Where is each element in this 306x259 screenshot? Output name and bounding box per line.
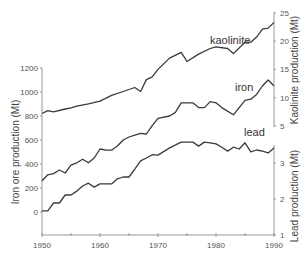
- left-tick-label: 400: [25, 160, 39, 169]
- x-tick-label: 1990: [265, 241, 283, 250]
- left-tick-label: 1200: [20, 64, 38, 73]
- right-top-axis-title: Kaolinite production (Mt): [289, 16, 300, 124]
- left-tick-label: 800: [25, 112, 39, 121]
- x-tick-label: 1970: [149, 241, 167, 250]
- x-tick-label: 1950: [33, 241, 51, 250]
- x-tick-label: 1960: [91, 241, 109, 250]
- series-lines: [42, 22, 274, 211]
- left-tick-label: 200: [25, 184, 39, 193]
- left-tick-label: 0: [34, 208, 39, 217]
- chart-canvas: 1950196019701980199002004006008001000120…: [0, 0, 306, 259]
- iron-line: [42, 80, 274, 181]
- x-tick-label: 1980: [207, 241, 225, 250]
- left-tick-label: 600: [25, 136, 39, 145]
- right-bottom-tick-label: 1: [280, 231, 285, 240]
- lead-line: [42, 142, 274, 211]
- iron-series-label: iron: [235, 81, 253, 93]
- right-top-tick-label: 5: [280, 122, 285, 131]
- kaolinite-series-label: kaolinite: [210, 34, 250, 46]
- right-bottom-axis-title: Lead production (Mt): [289, 150, 300, 242]
- right-bottom-tick-label: 2: [280, 195, 285, 204]
- left-tick-label: 1000: [20, 88, 38, 97]
- left-axis-title: Iron ore production (Mt): [10, 100, 21, 205]
- right-bottom-tick-label: 3: [280, 159, 285, 168]
- lead-series-label: lead: [244, 126, 265, 138]
